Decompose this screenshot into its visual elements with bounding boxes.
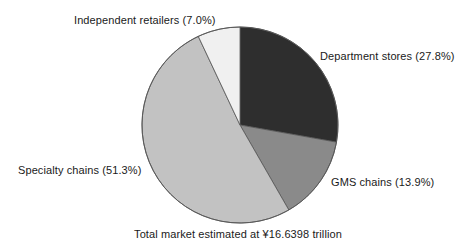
pie-chart-figure: Independent retailers (7.0%) Department … [0, 0, 476, 247]
pie-slice-department-stores [240, 27, 338, 142]
chart-caption: Total market estimated at ¥16.6398 trill… [0, 228, 476, 240]
pie-slices [142, 27, 338, 223]
pie-label-department-stores: Department stores (27.8%) [320, 50, 455, 63]
pie-label-specialty-chains: Specialty chains (51.3%) [18, 164, 141, 177]
pie-label-gms-chains: GMS chains (13.9%) [331, 176, 434, 189]
pie-label-independent-retailers: Independent retailers (7.0%) [74, 14, 216, 27]
pie-chart-graphic [0, 0, 476, 247]
